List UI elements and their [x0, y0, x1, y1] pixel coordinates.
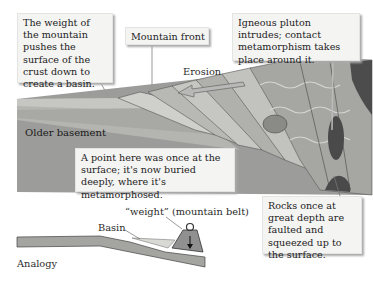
callout-faulted-rocks-text: Rocks once at great depth are faulted an…: [268, 200, 344, 260]
callout-weight-basin: The weight of the mountain pushes the su…: [17, 13, 113, 83]
weight-label: “weight” (mountain belt): [125, 206, 249, 218]
igneous-pluton: [328, 116, 344, 160]
callout-pluton: Igneous pluton intrudes; contact metamor…: [232, 13, 360, 61]
erosion-label: Erosion: [183, 66, 221, 78]
basin-label: Basin: [98, 222, 126, 234]
callout-faulted-rocks: Rocks once at great depth are faulted an…: [262, 196, 362, 254]
callout-weight-text: The weight of the mountain pushes the su…: [23, 17, 95, 89]
analogy-label: Analogy: [17, 258, 57, 270]
callout-mountain-front: Mountain front: [125, 27, 209, 45]
older-basement-label: Older basement: [25, 127, 106, 138]
weight-block: [172, 230, 203, 252]
callout-mountain-front-text: Mountain front: [131, 31, 205, 42]
callout-buried-point: A point here was once at the surface; it…: [75, 148, 235, 192]
callout-pluton-text: Igneous pluton intrudes; contact metamor…: [238, 17, 340, 65]
